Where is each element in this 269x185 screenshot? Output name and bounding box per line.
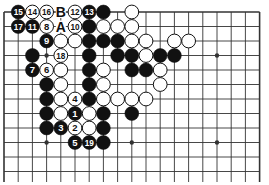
white-stone [125,20,139,34]
black-stone-13: 13 [82,5,96,19]
move-number: 10 [70,23,80,32]
black-stone [40,92,54,106]
white-stone [54,78,68,92]
black-stone [82,92,96,106]
stone-disc [54,92,68,106]
stone-disc [97,34,111,48]
stone-disc [68,34,82,48]
move-number: 18 [56,52,66,61]
star-point [215,53,219,57]
stone-disc [97,92,111,106]
black-stone-19: 19 [82,136,96,150]
white-stone [54,92,68,106]
board-svg: 15141612131711810918764132519 BA [0,0,269,185]
white-stone-12: 12 [68,5,82,19]
black-stone [82,63,96,77]
stone-disc [139,63,153,77]
go-board-diagram: 15141612131711810918764132519 BA [0,0,269,185]
stone-disc [82,63,96,77]
stone-disc [40,121,54,135]
black-stone [82,20,96,34]
move-number: 11 [28,23,37,32]
stone-disc [125,20,139,34]
black-stone [125,107,139,121]
white-stone-16: 16 [40,5,54,19]
move-number: 14 [28,8,38,17]
stone-disc [54,34,68,48]
white-stone-6: 6 [40,63,54,77]
move-number: 15 [14,8,24,17]
move-number: 2 [72,122,77,133]
black-stone [97,107,111,121]
black-stone [40,78,54,92]
white-stone-4: 4 [68,92,82,106]
stone-disc [153,49,167,63]
white-stone-14: 14 [26,5,40,19]
stone-disc [168,34,182,48]
stone-disc [125,49,139,63]
move-number: 17 [14,23,24,32]
white-stone [54,34,68,48]
black-stone-3: 3 [54,121,68,135]
black-stone-1: 1 [68,107,82,121]
move-number: 6 [44,64,49,75]
stone-disc [82,34,96,48]
stone-disc [54,107,68,121]
stone-disc [139,49,153,63]
black-stone [97,5,111,19]
black-stone [125,63,139,77]
move-number: 19 [85,139,95,148]
stone-disc [97,5,111,19]
white-stone [125,92,139,106]
black-stone [97,136,111,150]
stone-disc [153,78,167,92]
move-number: 7 [30,64,35,75]
white-stone [139,34,153,48]
stone-disc [26,49,40,63]
black-stone [82,34,96,48]
white-stone-8: 8 [40,20,54,34]
stone-disc [40,107,54,121]
white-stone [82,121,96,135]
white-stone [82,107,96,121]
stone-disc [182,34,196,48]
white-stone [111,92,125,106]
move-number: 8 [44,21,49,32]
black-stone-17: 17 [11,20,25,34]
stone-disc [125,92,139,106]
black-stone [125,49,139,63]
black-stone-15: 15 [11,5,25,19]
star-point [44,53,48,57]
white-stone [68,34,82,48]
black-stone [97,34,111,48]
stone-disc [168,49,182,63]
black-stone [111,34,125,48]
black-stone [40,121,54,135]
white-stone [125,5,139,19]
star-point [44,140,48,144]
white-stone [139,92,153,106]
star-point [215,140,219,144]
white-stone [125,34,139,48]
stone-disc [40,78,54,92]
stone-disc [153,63,167,77]
stone-disc [125,63,139,77]
stone-disc [40,92,54,106]
stone-disc [97,136,111,150]
black-stone-9: 9 [40,34,54,48]
marker-a: A [56,19,66,35]
move-number: 3 [58,122,63,133]
stone-disc [97,78,111,92]
black-stone-5: 5 [68,136,82,150]
stone-disc [82,107,96,121]
black-stone [153,49,167,63]
stone-disc [54,78,68,92]
stone-disc [82,78,96,92]
black-stone [26,49,40,63]
stone-disc [97,121,111,135]
white-stone [97,63,111,77]
white-stone-10: 10 [68,20,82,34]
stone-disc [82,92,96,106]
black-stone [139,63,153,77]
black-stone-11: 11 [26,20,40,34]
